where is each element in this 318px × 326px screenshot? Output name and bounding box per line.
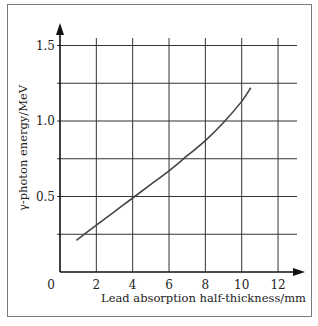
y-axis-label: γ-photon energy/MeV [16, 84, 30, 211]
x-tick-label: 12 [270, 278, 285, 292]
x-tick-label: 8 [202, 278, 210, 292]
y-tick-label: 0.5 [36, 190, 55, 204]
x-axis-arrow-icon [293, 268, 305, 276]
chart: 0246810120.51.01.5 Lead absorption half-… [0, 0, 318, 326]
grid-lines [57, 38, 297, 272]
x-tick-label: 2 [93, 278, 101, 292]
x-tick-label: 0 [47, 278, 55, 292]
x-tick-label: 4 [129, 278, 137, 292]
x-tick-label: 6 [165, 278, 173, 292]
tick-labels: 0246810120.51.01.5 [36, 39, 286, 293]
y-tick-label: 1.5 [36, 39, 55, 53]
data-curve [76, 88, 250, 241]
x-axis-label: Lead absorption half-thickness/mm [101, 291, 306, 305]
axes [56, 23, 305, 276]
x-tick-label: 10 [234, 278, 249, 292]
y-axis-arrow-icon [56, 23, 64, 35]
y-tick-label: 1.0 [36, 114, 55, 128]
